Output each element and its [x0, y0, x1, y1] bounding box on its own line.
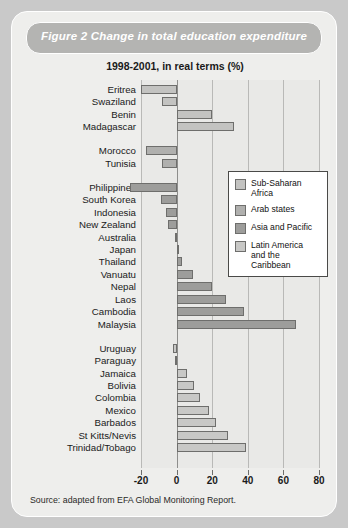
legend-label: Sub-Saharan Africa	[251, 178, 321, 198]
bar	[177, 393, 200, 402]
legend-swatch	[235, 179, 246, 190]
legend-item: Asia and Pacific	[235, 222, 321, 234]
bar	[162, 159, 176, 168]
bar	[177, 307, 245, 316]
category-label: Indonesia	[94, 208, 136, 218]
category-label: St Kitts/Nevis	[78, 431, 136, 441]
bar	[177, 431, 229, 440]
category-label: Swaziland	[92, 97, 136, 107]
category-label: Madagascar	[83, 122, 136, 132]
bar	[177, 110, 213, 119]
bar	[177, 270, 193, 279]
bar	[177, 295, 227, 304]
category-label: Morocco	[99, 146, 136, 156]
bar	[161, 195, 177, 204]
category-label: Japan	[110, 245, 136, 255]
category-label: Thailand	[99, 257, 136, 267]
bar	[130, 183, 176, 192]
chart-plot-area: EritreaSwazilandBeninMadagascarMoroccoTu…	[20, 80, 330, 480]
category-label: Trinidad/Tobago	[67, 443, 136, 453]
legend-label: Arab states	[251, 204, 294, 214]
bar	[146, 146, 176, 155]
source-note: Source: adapted from EFA Global Monitori…	[30, 495, 236, 505]
chart-subtitle: 1998-2001, in real terms (%)	[12, 60, 338, 72]
figure-card: Figure 2 Change in total education expen…	[11, 11, 337, 517]
bar	[173, 344, 177, 353]
category-label: New Zealand	[79, 220, 136, 230]
bar	[177, 381, 195, 390]
legend-swatch	[235, 205, 246, 216]
chart-legend: Sub-Saharan AfricaArab statesAsia and Pa…	[228, 171, 328, 277]
axis-tick-label: 40	[242, 475, 253, 486]
category-label: Tunisia	[105, 159, 136, 169]
bar	[175, 356, 177, 365]
bar	[141, 85, 177, 94]
legend-swatch	[235, 241, 246, 252]
bar	[177, 406, 209, 415]
gridline	[212, 80, 213, 468]
category-label: Paraguay	[95, 356, 136, 366]
bar	[177, 257, 182, 266]
legend-item: Latin Americaand the Caribbean	[235, 240, 321, 270]
bar	[168, 220, 177, 229]
axis-tick-label: -20	[134, 475, 148, 486]
category-label: Colombia	[95, 393, 136, 403]
axis-tick-label: 80	[313, 475, 324, 486]
legend-item: Arab states	[235, 204, 321, 216]
category-label: Bolivia	[107, 381, 136, 391]
value-axis-ticks: -20020406080	[20, 470, 330, 486]
axis-tick-label: 20	[207, 475, 218, 486]
bar	[177, 245, 179, 254]
gridline	[141, 80, 142, 468]
bar	[166, 208, 177, 217]
legend-label: Latin Americaand the Caribbean	[251, 240, 321, 270]
page-title: Figure 2 Change in total education expen…	[41, 30, 307, 42]
category-label: Barbados	[95, 418, 136, 428]
category-label: Eritrea	[107, 85, 136, 95]
category-label: Malaysia	[98, 320, 136, 330]
bar	[162, 97, 176, 106]
category-label: Jamaica	[100, 369, 136, 379]
category-label: Uruguay	[99, 344, 136, 354]
category-label: Cambodia	[92, 307, 136, 317]
category-label: Laos	[115, 295, 136, 305]
bar	[177, 369, 188, 378]
bar	[175, 233, 177, 242]
category-label: Benin	[111, 110, 136, 120]
category-label: Nepal	[111, 282, 136, 292]
bar	[177, 122, 234, 131]
category-label: South Korea	[82, 195, 136, 205]
legend-item: Sub-Saharan Africa	[235, 178, 321, 198]
figure-title-bar: Figure 2 Change in total education expen…	[26, 22, 322, 54]
bar	[177, 443, 246, 452]
category-label: Australia	[98, 233, 136, 243]
axis-tick-label: 0	[174, 475, 180, 486]
category-label: Mexico	[105, 406, 136, 416]
legend-swatch	[235, 223, 246, 234]
bar	[177, 282, 213, 291]
bar	[177, 320, 296, 329]
category-label: Vanuatu	[101, 270, 136, 280]
category-label: Philippines	[89, 183, 136, 193]
legend-label: Asia and Pacific	[251, 222, 312, 232]
axis-tick-label: 60	[278, 475, 289, 486]
bar	[177, 418, 216, 427]
